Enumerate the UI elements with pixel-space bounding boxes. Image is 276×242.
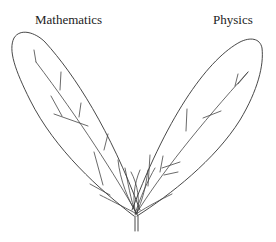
physics-leaf — [132, 39, 262, 216]
leaves-diagram — [0, 0, 276, 242]
stem — [135, 216, 138, 231]
mathematics-leaf — [12, 32, 140, 216]
